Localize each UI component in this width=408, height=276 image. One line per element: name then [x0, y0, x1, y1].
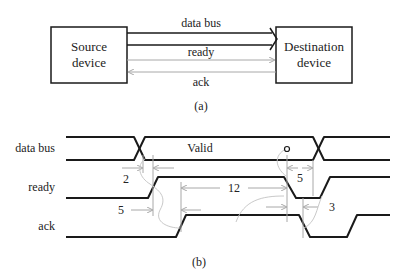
data-bus-waveform — [66, 137, 390, 160]
data-bus-label: data bus — [181, 16, 221, 30]
caption-b: (b) — [192, 255, 206, 269]
interval-12-label: 12 — [228, 181, 240, 195]
valid-label: Valid — [187, 141, 212, 155]
interval-5-right-label: 5 — [297, 171, 303, 185]
caption-a: (a) — [194, 99, 207, 113]
interval-5-right: 5 — [288, 168, 312, 185]
row-label-ready: ready — [28, 180, 55, 194]
interval-2-label: 2 — [123, 172, 129, 186]
destination-device-label-line1: Destination — [284, 39, 344, 54]
timing-diagram: data bus ready ack Valid 2 — [15, 137, 390, 269]
interval-12: 12 — [182, 181, 286, 195]
source-device-label-line2: device — [72, 55, 106, 70]
ack-waveform — [66, 215, 390, 237]
row-label-ack: ack — [38, 219, 55, 233]
dimension-guides — [143, 155, 313, 238]
source-device-label-line1: Source — [71, 39, 107, 54]
sample-point-marker — [285, 147, 290, 152]
block-diagram: Source device Destination device data bu… — [51, 16, 352, 113]
interval-3-label: 3 — [329, 200, 335, 214]
interval-5-left-label: 5 — [118, 203, 124, 217]
interval-3: 3 — [266, 200, 335, 214]
ready-label: ready — [188, 45, 215, 59]
ack-label: ack — [193, 75, 210, 89]
handshake-figure: Source device Destination device data bu… — [0, 0, 408, 276]
destination-device-label-line2: device — [297, 55, 331, 70]
row-label-data-bus: data bus — [15, 141, 55, 155]
